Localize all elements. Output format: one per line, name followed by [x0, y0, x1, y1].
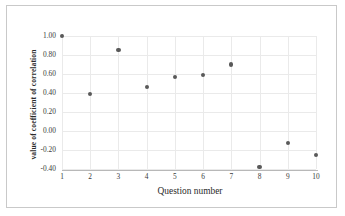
gridline-horizontal: [62, 74, 316, 75]
y-axis-tick-label: -0.20: [26, 146, 56, 153]
data-point: [257, 165, 261, 169]
y-axis-tick-label: 0.20: [26, 108, 56, 115]
gridline-vertical: [316, 36, 317, 169]
y-axis-tick-label: 0.40: [26, 89, 56, 96]
data-point: [286, 141, 290, 145]
gridline-horizontal: [62, 112, 316, 113]
y-axis-tick-label: 1.00: [26, 32, 56, 39]
data-point: [314, 153, 318, 157]
y-axis-tick-label: -0.40: [26, 165, 56, 172]
gridline-horizontal: [62, 93, 316, 94]
x-axis-tick-label: 2: [80, 173, 100, 180]
gridline-vertical: [288, 36, 289, 169]
data-point: [116, 48, 120, 52]
data-point: [88, 92, 92, 96]
x-axis-title: Question number: [60, 186, 320, 196]
plot-area: [62, 36, 316, 169]
gridline-horizontal: [62, 55, 316, 56]
gridline-vertical: [147, 36, 148, 169]
y-axis-tick-label: 0.60: [26, 70, 56, 77]
y-axis-tick-label: 0.80: [26, 51, 56, 58]
x-axis-tick-label: 6: [193, 173, 213, 180]
x-axis-tick-label: 3: [108, 173, 128, 180]
chart-figure: value of coefficient of correlation 1.00…: [0, 0, 345, 216]
gridline-vertical: [231, 36, 232, 169]
gridline-horizontal: [62, 169, 316, 170]
x-axis-tick-label: 4: [137, 173, 157, 180]
y-axis-tick-label: 0.00: [26, 127, 56, 134]
x-axis-tick-label: 8: [250, 173, 270, 180]
x-axis-tick-label: 5: [165, 173, 185, 180]
gridline-vertical: [175, 36, 176, 169]
gridline-horizontal: [62, 36, 316, 37]
gridline-vertical: [62, 36, 63, 169]
data-point: [60, 34, 64, 38]
x-axis-tick-label: 10: [306, 173, 326, 180]
gridline-vertical: [90, 36, 91, 169]
gridline-horizontal: [62, 131, 316, 132]
x-axis-line: [62, 170, 318, 171]
data-point: [145, 85, 149, 89]
gridline-vertical: [118, 36, 119, 169]
x-axis-tick-label: 9: [278, 173, 298, 180]
gridline-vertical: [260, 36, 261, 169]
gridline-horizontal: [62, 150, 316, 151]
data-point: [173, 75, 177, 79]
gridline-vertical: [203, 36, 204, 169]
data-point: [229, 62, 233, 66]
x-axis-tick-labels: 12345678910: [0, 173, 345, 187]
data-point: [201, 73, 205, 77]
x-axis-tick-label: 1: [52, 173, 72, 180]
x-axis-tick-label: 7: [221, 173, 241, 180]
